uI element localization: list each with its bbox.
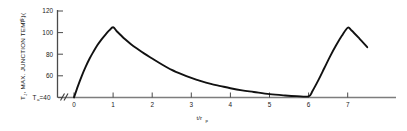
temperature-curve	[74, 27, 367, 97]
x-axis-title-sub: p	[206, 118, 209, 123]
baseline-label-value: =40	[40, 94, 51, 101]
thermal-response-plot: 120 100 80 60 T a =40 0 1 2 3	[0, 0, 407, 131]
y-tick-label-80: 80	[46, 51, 54, 58]
y-tick-label-120: 120	[42, 7, 53, 14]
x-tick-label-6: 6	[307, 101, 311, 108]
y-axis-title: T J , MAX. JUNCTION TEMP. ( °C )	[19, 12, 28, 100]
y-tick-label-100: 100	[42, 29, 53, 36]
x-tick-label-3: 3	[190, 101, 194, 108]
y-axis-ticks	[58, 11, 64, 97]
baseline-temp-label: T a =40	[33, 94, 51, 103]
y-axis-title-close: )	[19, 15, 26, 17]
x-tick-label-2: 2	[150, 101, 154, 108]
x-axis-title-main: t/r	[197, 114, 203, 121]
x-tick-label-1: 1	[111, 101, 115, 108]
y-tick-label-60: 60	[46, 72, 54, 79]
baseline-label-main: T	[33, 94, 37, 101]
x-axis-title: t/r p	[197, 114, 209, 123]
x-tick-label-4: 4	[229, 101, 233, 108]
y-axis-title-unit: °C	[19, 18, 24, 23]
x-tick-label-0: 0	[72, 101, 76, 108]
x-tick-label-7: 7	[346, 101, 350, 108]
x-tick-label-5: 5	[268, 101, 272, 108]
